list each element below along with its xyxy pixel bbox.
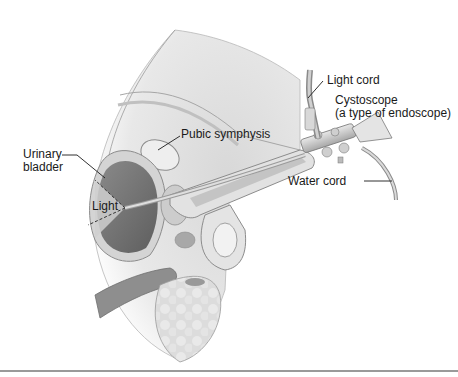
water-cord-label: Water cord xyxy=(288,175,346,188)
cystoscope-sublabel: (a type of endoscope) xyxy=(335,107,451,120)
urinary-bladder-sublabel: bladder xyxy=(23,161,63,174)
light-cord-label: Light cord xyxy=(327,74,380,87)
light-label: Light xyxy=(92,200,118,213)
pubic-symphysis-label: Pubic symphysis xyxy=(181,128,270,141)
bottom-divider xyxy=(0,370,458,372)
cystoscopy-diagram: Light cord Cystoscope (a type of endosco… xyxy=(0,0,458,377)
anatomy-illustration xyxy=(0,0,458,377)
